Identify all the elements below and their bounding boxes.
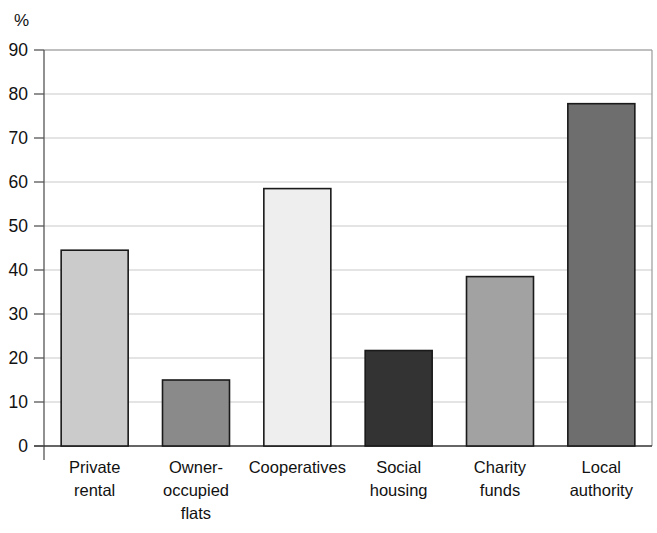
x-axis-labels: PrivaterentalOwner-occupiedflatsCooperat… [69,458,634,522]
bar-5[interactable]: Charity funds: 38.5% [467,277,534,446]
x-tick-label-3: Cooperatives [249,458,346,476]
bar-2[interactable]: Owner-occupied flats: 15% [163,380,230,446]
bar-3[interactable]: Cooperatives: 58.5% [264,189,331,446]
y-tick-label-0: 0 [18,436,28,456]
y-tick-label-80: 80 [9,84,29,104]
chart-canvas: 0102030405060708090%Private rental: 44.5… [0,0,657,533]
x-tick-label-5: Charityfunds [474,458,527,499]
x-tick-label-4: Socialhousing [370,458,428,499]
y-tick-label-50: 50 [9,216,29,236]
plot-background [44,50,652,446]
y-tick-label-10: 10 [9,392,29,412]
x-tick-label-2: Owner-occupiedflats [163,458,229,522]
bar-6[interactable]: Local authority: 77.8% [568,104,635,446]
y-axis-ticks: 0102030405060708090 [9,40,44,456]
y-tick-label-70: 70 [9,128,29,148]
y-tick-label-60: 60 [9,172,29,192]
x-tick-label-1: Privaterental [69,458,120,499]
y-tick-label-20: 20 [9,348,29,368]
bar-1[interactable]: Private rental: 44.5% [61,250,128,446]
y-tick-label-40: 40 [9,260,29,280]
y-axis-unit-label: % [14,11,29,30]
y-tick-label-30: 30 [9,304,29,324]
bar-chart: 0102030405060708090%Private rental: 44.5… [0,0,657,533]
x-tick-label-6: Localauthority [570,458,634,499]
y-tick-label-90: 90 [9,40,29,60]
bar-4[interactable]: Social housing: 21.7% [365,351,432,446]
